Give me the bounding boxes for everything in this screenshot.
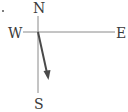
south-label: S [34, 97, 44, 111]
bullet-dot [2, 10, 4, 12]
north-label: N [33, 1, 45, 15]
compass-graphic [0, 0, 128, 112]
east-label: E [116, 26, 126, 40]
direction-arrow-head-icon [44, 70, 51, 80]
west-label: W [8, 26, 22, 40]
compass-diagram: N W E S [0, 0, 128, 112]
direction-arrow-shaft [38, 32, 47, 73]
